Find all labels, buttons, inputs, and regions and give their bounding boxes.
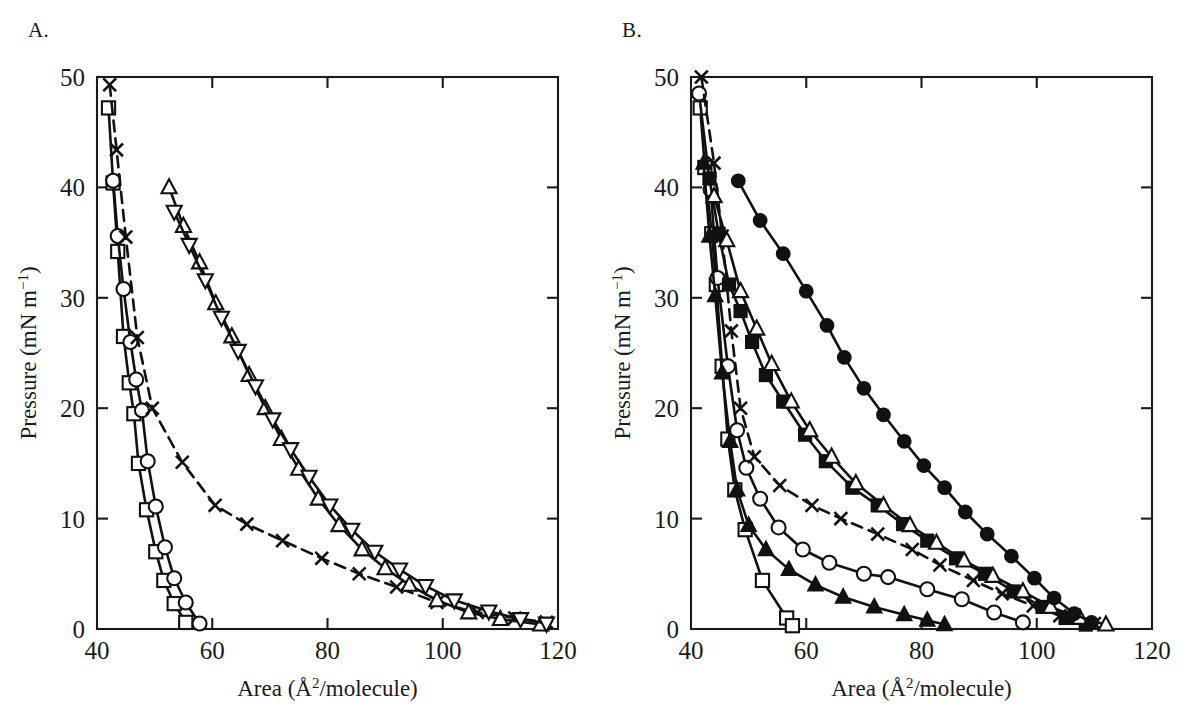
marker-open-circle — [1016, 615, 1030, 629]
marker-filled-circle — [959, 505, 972, 518]
x-tick-label-40: 40 — [85, 637, 110, 664]
x-tick-label-120: 120 — [539, 637, 577, 664]
marker-open-circle — [129, 372, 143, 386]
marker-open-circle — [857, 567, 871, 581]
x-axis-title: Area (Å2/molecule) — [831, 675, 1012, 701]
series-line-filled-square-isotherm — [709, 179, 1085, 625]
marker-open-triangle-down — [367, 546, 382, 560]
marker-open-circle — [772, 520, 786, 534]
marker-open-triangle-down — [198, 274, 213, 288]
marker-filled-circle — [820, 319, 833, 332]
y-tick-label-10: 10 — [60, 506, 85, 533]
y-tick-label-40: 40 — [654, 174, 679, 201]
marker-open-circle — [179, 596, 193, 610]
x-tick-label-100: 100 — [424, 637, 462, 664]
figure-root: A. 40608010012001020304050Area (Å2/molec… — [0, 0, 1188, 724]
panel-b-plot: 40608010012001020304050Area (Å2/molecule… — [594, 0, 1188, 724]
y-tick-label-20: 20 — [654, 395, 679, 422]
x-tick-label-60: 60 — [200, 637, 225, 664]
panel-b: B. 40608010012001020304050Area (Å2/molec… — [594, 0, 1188, 724]
marker-filled-circle — [732, 174, 745, 187]
marker-open-circle — [822, 556, 836, 570]
y-axis-title-text: Pressure (mN m−1) — [15, 266, 41, 439]
x-tick-label-40: 40 — [679, 637, 704, 664]
y-tick-label-50: 50 — [654, 64, 679, 91]
marker-filled-square — [746, 336, 759, 349]
series-open-circle-isotherm — [692, 87, 1030, 630]
series-open-triangle-isotherm — [707, 188, 1114, 630]
marker-filled-square — [723, 278, 736, 291]
y-tick-label-0: 0 — [73, 616, 86, 643]
series-open-down-triangle-isotherm — [167, 206, 554, 632]
marker-filled-circle — [981, 527, 994, 540]
marker-filled-circle — [877, 408, 890, 421]
series-layer — [692, 71, 1113, 633]
marker-filled-circle — [1085, 616, 1098, 629]
marker-open-circle — [796, 543, 810, 557]
marker-filled-circle — [1028, 572, 1041, 585]
y-tick-label-0: 0 — [667, 616, 680, 643]
panel-a: A. 40608010012001020304050Area (Å2/molec… — [0, 0, 594, 724]
marker-open-square — [756, 574, 769, 587]
marker-open-circle — [730, 423, 744, 437]
marker-open-triangle-down — [231, 345, 246, 359]
series-line-open-down-triangle-isotherm — [174, 212, 546, 624]
marker-open-circle — [141, 454, 155, 468]
x-tick-label-100: 100 — [1018, 637, 1056, 664]
marker-open-circle — [158, 540, 172, 554]
x-tick-label-80: 80 — [909, 637, 934, 664]
series-line-open-circle-isotherm — [699, 94, 1023, 623]
marker-filled-circle — [857, 382, 870, 395]
marker-filled-circle — [898, 435, 911, 448]
marker-open-circle — [117, 282, 131, 296]
series-line-open-triangle-isotherm — [714, 196, 1106, 624]
y-tick-label-50: 50 — [60, 64, 85, 91]
y-tick-label-20: 20 — [60, 395, 85, 422]
marker-open-circle — [753, 492, 767, 506]
y-tick-label-10: 10 — [654, 506, 679, 533]
marker-open-triangle-down — [248, 380, 263, 394]
marker-filled-circle — [777, 247, 790, 260]
marker-open-circle — [193, 616, 207, 630]
marker-filled-circle — [838, 351, 851, 364]
x-axis-title-text: Area (Å2/molecule) — [237, 675, 418, 701]
marker-open-triangle-up — [749, 321, 764, 335]
marker-filled-circle — [754, 214, 767, 227]
x-axis-title-text: Area (Å2/molecule) — [831, 675, 1012, 701]
x-tick-label-60: 60 — [794, 637, 819, 664]
marker-filled-circle — [938, 481, 951, 494]
series-open-up-triangle-isotherm — [161, 179, 548, 630]
series-filled-square-isotherm — [703, 172, 1092, 631]
marker-open-circle — [167, 571, 181, 585]
marker-open-triangle-up — [161, 179, 176, 193]
x-axis-title: Area (Å2/molecule) — [237, 675, 418, 701]
marker-filled-circle — [917, 459, 930, 472]
marker-filled-circle — [1005, 550, 1018, 563]
marker-filled-square — [703, 172, 716, 185]
marker-open-circle — [739, 461, 753, 475]
x-tick-label-80: 80 — [315, 637, 340, 664]
series-line-cross-isotherm — [110, 85, 547, 623]
panel-a-plot: 40608010012001020304050Area (Å2/molecule… — [0, 0, 594, 724]
y-tick-label-30: 30 — [654, 285, 679, 312]
marker-open-circle — [955, 592, 969, 606]
marker-open-circle — [987, 605, 1001, 619]
marker-open-square — [179, 616, 192, 629]
marker-open-circle — [149, 499, 163, 513]
marker-open-triangle-down — [265, 413, 280, 427]
marker-open-circle — [920, 582, 934, 596]
y-tick-label-40: 40 — [60, 174, 85, 201]
marker-filled-circle — [1047, 591, 1060, 604]
marker-filled-square — [734, 305, 747, 318]
marker-open-circle — [881, 570, 895, 584]
y-tick-label-30: 30 — [60, 285, 85, 312]
marker-filled-circle — [800, 285, 813, 298]
marker-open-square — [786, 619, 799, 632]
series-line-filled-triangle-isotherm — [704, 163, 945, 624]
x-tick-label-120: 120 — [1133, 637, 1171, 664]
marker-filled-triangle-up — [808, 577, 823, 591]
marker-filled-circle — [1068, 607, 1081, 620]
series-line-open-up-triangle-isotherm — [169, 187, 541, 624]
y-axis-title-text: Pressure (mN m−1) — [609, 266, 635, 439]
series-layer — [102, 78, 554, 631]
